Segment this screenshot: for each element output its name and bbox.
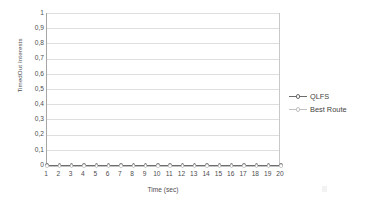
legend-label: Best Route [310, 105, 347, 114]
data-point-marker [45, 164, 48, 167]
data-point-marker [107, 164, 110, 167]
data-point-marker [242, 164, 245, 167]
data-point-marker [156, 164, 159, 167]
data-point-marker [255, 164, 258, 167]
y-tick-label: 0,7 [4, 55, 44, 62]
data-point-marker [205, 164, 208, 167]
data-point-marker [168, 164, 171, 167]
data-point-marker [230, 164, 233, 167]
plot-area [46, 13, 280, 165]
x-tick-label: 20 [272, 171, 288, 178]
y-tick-label: 0,2 [4, 131, 44, 138]
y-tick-label: 1 [4, 10, 44, 17]
data-point-marker [119, 164, 122, 167]
data-point-marker [70, 164, 73, 167]
legend-item-2[interactable]: Best Route [289, 103, 347, 116]
data-point-marker [279, 164, 282, 167]
y-tick-label: 0,4 [4, 101, 44, 108]
legend-label: QLFS [310, 92, 329, 101]
data-point-marker [58, 164, 61, 167]
x-axis-title: Time (sec) [46, 186, 280, 193]
series-2 [47, 13, 279, 165]
y-tick-label: 0,5 [4, 86, 44, 93]
y-tick-label: 0,3 [4, 116, 44, 123]
corner-artifact [322, 186, 327, 192]
data-point-marker [267, 164, 270, 167]
data-point-marker [95, 164, 98, 167]
data-point-marker [132, 164, 135, 167]
data-point-marker [218, 164, 221, 167]
chart-legend: QLFSBest Route [289, 90, 347, 116]
legend-swatch-icon [289, 92, 307, 101]
y-tick-label: 0,6 [4, 71, 44, 78]
y-tick-label: 0,9 [4, 25, 44, 32]
data-point-marker [144, 164, 147, 167]
chart-figure: TimedOut Interests 00,10,20,30,40,50,60,… [0, 0, 366, 208]
y-tick-label: 0,8 [4, 40, 44, 47]
data-point-marker [82, 164, 85, 167]
legend-item-1[interactable]: QLFS [289, 90, 347, 103]
legend-swatch-icon [289, 105, 307, 114]
data-point-marker [181, 164, 184, 167]
y-tick-label: 0,1 [4, 147, 44, 154]
data-point-marker [193, 164, 196, 167]
y-tick-label: 0 [4, 162, 44, 169]
